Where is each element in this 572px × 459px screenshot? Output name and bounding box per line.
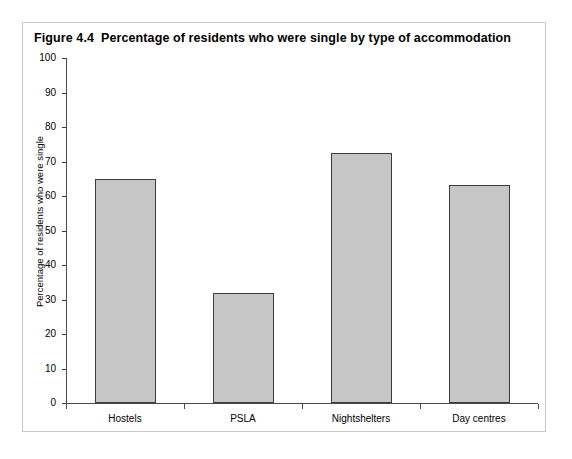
y-tick-label: 60 <box>30 191 56 201</box>
y-tick-label: 10 <box>30 364 56 374</box>
y-tick-label: 100 <box>30 53 56 63</box>
y-tick-mark <box>62 231 66 232</box>
x-tick-mark <box>66 404 67 409</box>
figure-panel: Figure 4.4Percentage of residents who we… <box>22 22 546 432</box>
y-tick-mark <box>62 93 66 94</box>
bar <box>449 185 510 403</box>
x-tick-label: Nightshelters <box>302 413 420 424</box>
y-tick-mark <box>62 127 66 128</box>
x-tick-mark <box>302 404 303 409</box>
y-tick-label: 30 <box>30 295 56 305</box>
y-tick-label: 80 <box>30 122 56 132</box>
bar <box>331 153 392 403</box>
x-tick-mark <box>538 404 539 409</box>
bar <box>213 293 274 403</box>
y-tick-mark <box>62 196 66 197</box>
y-tick-mark <box>62 265 66 266</box>
x-tick-label: Day centres <box>420 413 538 424</box>
x-tick-label: Hostels <box>66 413 184 424</box>
y-tick-label: 40 <box>30 260 56 270</box>
y-axis-line <box>66 58 67 404</box>
y-tick-mark <box>62 300 66 301</box>
bar-chart-plot: Percentage of residents who were single … <box>23 23 547 433</box>
x-tick-label: PSLA <box>184 413 302 424</box>
bar <box>95 179 156 403</box>
y-tick-label: 50 <box>30 226 56 236</box>
y-tick-mark <box>62 369 66 370</box>
y-tick-label: 70 <box>30 157 56 167</box>
x-tick-mark <box>184 404 185 409</box>
y-tick-mark <box>62 58 66 59</box>
y-tick-label: 20 <box>30 329 56 339</box>
y-tick-label: 90 <box>30 88 56 98</box>
x-tick-mark <box>420 404 421 409</box>
y-tick-label: 0 <box>30 398 56 408</box>
y-tick-mark <box>62 334 66 335</box>
y-tick-mark <box>62 162 66 163</box>
